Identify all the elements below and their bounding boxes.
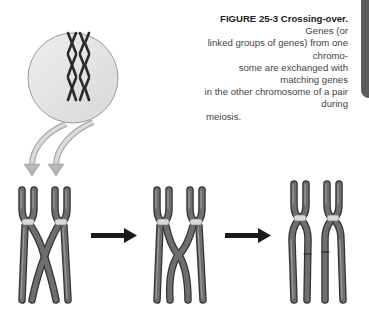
figure-label: FIGURE 25-3	[220, 13, 278, 24]
figure-caption: FIGURE 25-3 Crossing-over. Genes (or lin…	[198, 13, 348, 123]
stage-2-chiasma	[156, 190, 203, 300]
caption-line-2: linked groups of genes) from one chromo-	[208, 37, 348, 60]
caption-line-4: in the other chromosome of a pair during	[205, 86, 348, 109]
caption-line-5: meiosis.	[198, 111, 348, 123]
arrow-2	[225, 228, 271, 243]
arrow-1	[91, 228, 137, 243]
stage-3-recombined	[291, 184, 343, 300]
caption-line-3: some are exchanged with matching genes	[239, 62, 348, 85]
curved-arrows	[24, 122, 93, 176]
chapter-tab	[361, 0, 369, 98]
caption-line-1: Genes (or	[305, 25, 348, 36]
cell-inset	[28, 33, 118, 123]
figure-title: Crossing-over.	[281, 13, 348, 24]
stage-1-chromosome-pair	[21, 190, 68, 300]
